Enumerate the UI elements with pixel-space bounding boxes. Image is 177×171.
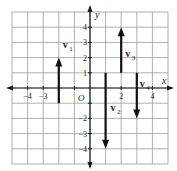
vector-arrowhead-icon bbox=[55, 58, 62, 67]
origin-label: O bbox=[78, 93, 85, 103]
vector-label: v bbox=[111, 102, 116, 113]
x-axis-label: x bbox=[161, 75, 167, 86]
y-axis-down-arrow-icon bbox=[88, 162, 93, 169]
vector-label: v bbox=[63, 39, 68, 50]
vector-v4: v4 bbox=[133, 73, 150, 119]
vector-v1: v1 bbox=[55, 39, 73, 104]
y-tick-label: −2 bbox=[78, 114, 87, 123]
y-axis-up-arrow-icon bbox=[88, 5, 93, 12]
x-tick-label: 2 bbox=[119, 92, 123, 101]
y-tick-label: −4 bbox=[78, 145, 87, 154]
vector-label: v bbox=[140, 78, 145, 89]
vector-diagram: −4−3244321−2−3−4 v1v2v3v4 x y O bbox=[0, 0, 177, 171]
vector-label-subscript: 3 bbox=[132, 54, 136, 62]
vector-label-subscript: 1 bbox=[69, 45, 73, 53]
vector-arrowhead-icon bbox=[133, 109, 140, 118]
y-tick-label: 1 bbox=[83, 69, 87, 78]
vector-label-subscript: 2 bbox=[117, 108, 121, 116]
vector-label-subscript: 4 bbox=[146, 84, 150, 92]
x-tick-label: −4 bbox=[23, 92, 32, 101]
y-tick-label: 2 bbox=[83, 54, 87, 63]
y-axis-label: y bbox=[94, 9, 100, 20]
y-tick-label: 3 bbox=[83, 38, 87, 47]
x-axis-right-arrow-icon bbox=[167, 86, 174, 91]
vector-label: v bbox=[125, 48, 130, 59]
x-tick-label: −3 bbox=[39, 92, 48, 101]
vector-v2: v2 bbox=[102, 73, 121, 149]
x-tick-label: 4 bbox=[150, 92, 154, 101]
vector-arrowhead-icon bbox=[118, 27, 125, 36]
y-tick-label: −3 bbox=[78, 130, 87, 139]
vector-v3: v3 bbox=[118, 27, 136, 73]
y-tick-label: 4 bbox=[83, 23, 87, 32]
vector-arrowhead-icon bbox=[102, 140, 109, 149]
x-axis-left-arrow-icon bbox=[6, 86, 13, 91]
